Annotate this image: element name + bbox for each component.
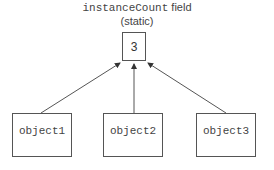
object2-box: object2 — [103, 113, 163, 157]
object1-box: object1 — [12, 113, 72, 157]
object-label: object3 — [203, 125, 249, 137]
instance-count-value: 3 — [131, 40, 138, 54]
instance-count-box: 3 — [122, 32, 146, 61]
arrow-object1 — [41, 63, 120, 113]
object-label: object1 — [19, 125, 65, 137]
object-label: object2 — [110, 125, 156, 137]
arrow-object3 — [148, 63, 226, 113]
object3-box: object3 — [196, 113, 256, 157]
